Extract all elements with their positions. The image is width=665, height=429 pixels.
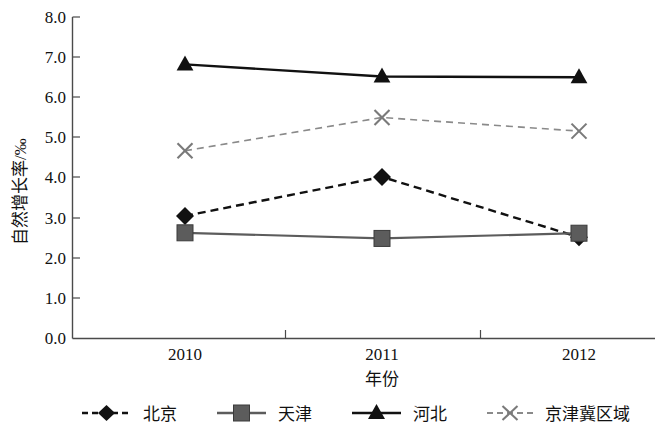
y-tick-label-5: 5.0: [45, 128, 66, 147]
marker-square-2010: [177, 225, 193, 241]
series-beijing-tianjin-hebei-region: [178, 110, 587, 158]
legend-marker-x-icon: [503, 406, 518, 420]
x-tick-label-2012: 2012: [562, 345, 596, 364]
y-tick-label-0: 0.0: [45, 329, 66, 348]
y-tick-label-2: 2.0: [45, 249, 66, 268]
chart-canvas: 自然增长率/‰ 8.0 7.0 6.0 5.0 4.0 3.0 2.0 1.0 …: [0, 0, 665, 429]
marker-triangle-2010: [177, 55, 194, 70]
marker-square-2011: [374, 230, 390, 246]
y-tick-label-4: 4.0: [45, 168, 66, 187]
legend-item-tianjin[interactable]: 天津: [217, 405, 312, 424]
chart-legend: 北京 天津 河北 京津冀区域: [82, 404, 630, 424]
x-axis-title: 年份: [365, 370, 399, 389]
series-hebei: [177, 55, 588, 83]
marker-x-2012: [572, 124, 587, 139]
marker-x-2010: [178, 143, 193, 158]
x-tick-label-2010: 2010: [168, 345, 202, 364]
y-tick-label-1: 1.0: [45, 289, 66, 308]
y-tick-label-8: 8.0: [45, 8, 66, 27]
legend-label-hebei: 河北: [413, 405, 447, 424]
x-tick-marks: [286, 330, 481, 339]
legend-marker-triangle-icon: [368, 404, 385, 419]
legend-label-region: 京津冀区域: [545, 405, 630, 424]
legend-item-region[interactable]: 京津冀区域: [487, 405, 630, 424]
legend-label-beijing: 北京: [143, 405, 177, 424]
legend-item-hebei[interactable]: 河北: [352, 404, 447, 424]
y-axis-title: 自然增长率/‰: [11, 138, 30, 245]
marker-triangle-2012: [571, 68, 588, 83]
line-chart-figure: 自然增长率/‰ 8.0 7.0 6.0 5.0 4.0 3.0 2.0 1.0 …: [0, 0, 665, 429]
y-tick-marks: [73, 17, 81, 298]
legend-marker-square-icon: [234, 405, 250, 421]
legend-item-beijing[interactable]: 北京: [82, 405, 177, 424]
series-tianjin: [177, 225, 587, 247]
series-line-region: [185, 118, 579, 151]
y-tick-label-7: 7.0: [45, 48, 66, 67]
marker-square-2012: [571, 225, 587, 241]
marker-diamond-2011: [373, 168, 391, 186]
x-tick-label-2011: 2011: [365, 345, 398, 364]
y-tick-label-6: 6.0: [45, 88, 66, 107]
legend-marker-diamond-icon: [98, 405, 115, 421]
legend-label-tianjin: 天津: [278, 405, 312, 424]
marker-diamond-2010: [176, 207, 194, 225]
y-tick-label-3: 3.0: [45, 209, 66, 228]
